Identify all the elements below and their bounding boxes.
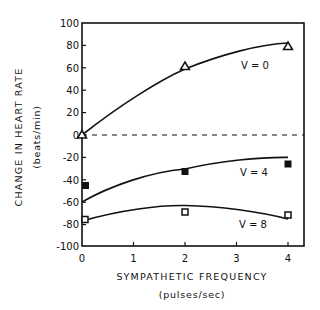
y-tick-label: -20 [63,152,79,163]
x-tick-label: 1 [130,253,136,264]
y-tick-label: -40 [63,175,79,186]
open-square-marker [285,212,291,218]
x-tick-label: 3 [233,253,239,264]
y-tick-label: -80 [63,219,79,230]
y-axis-title: CHANGE IN HEART RATE [13,68,24,207]
y-tick-label: -100 [56,241,79,252]
x-axis-unit: (pulses/sec) [159,289,226,300]
markers-v0 [78,42,293,138]
curve-v4 [82,157,288,202]
filled-square-marker [285,161,292,168]
triangle-marker [181,62,190,70]
heart-rate-chart: 100 80 60 40 20 0 -20 -40 -60 -80 -100 0… [0,0,320,310]
x-tick-label: 4 [285,253,291,264]
y-tick-label: 40 [66,85,79,96]
series-label-v0: V = 0 [241,60,269,71]
open-square-marker [182,209,188,215]
filled-square-marker [182,168,189,175]
y-tick-label: 20 [66,107,79,118]
curve-v0 [82,43,288,135]
x-tick-label: 2 [182,253,188,264]
series-label-v8: V = 8 [239,219,267,230]
y-axis-unit: (beats/min) [31,105,42,169]
series-label-v4: V = 4 [240,167,268,178]
x-axis-title: SYMPATHETIC FREQUENCY [116,271,267,282]
y-tick-label: 100 [60,18,79,29]
open-square-marker [82,217,88,223]
filled-square-marker [82,182,89,189]
y-tick-label: 0 [73,130,79,141]
y-tick-label: 80 [66,40,79,51]
y-tick-label: 60 [66,63,79,74]
y-tick-label: -60 [63,197,79,208]
x-tick-label: 0 [79,253,85,264]
